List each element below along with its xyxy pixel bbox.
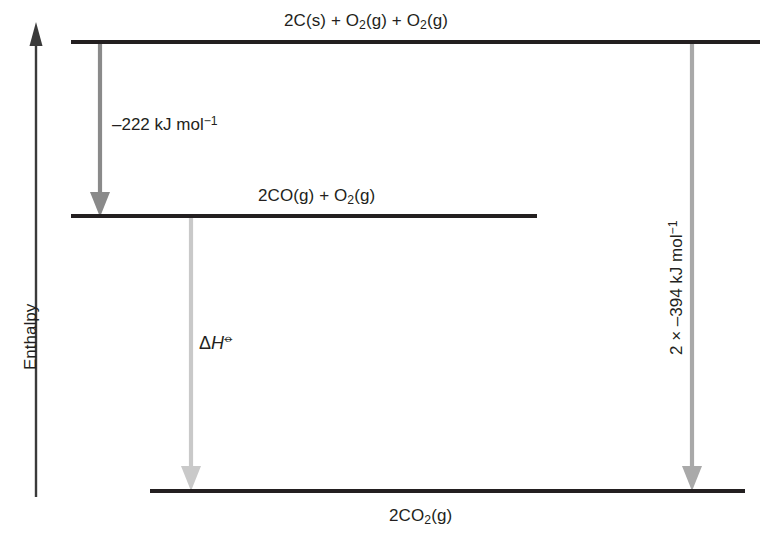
enthalpy-axis xyxy=(30,22,43,497)
arrow-left-value: –222 kJ mol xyxy=(112,115,204,134)
species-bottom-sub: 2 xyxy=(424,513,431,527)
arrow-label-right: 2 × –394 kJ mol−1 xyxy=(668,221,685,355)
enthalpy-level-diagram: Enthalpy 2C(s) + O2(g) + O2(g) 2CO(g) + … xyxy=(0,0,763,544)
arrow-right-exponent: −1 xyxy=(666,221,680,235)
level-line-top xyxy=(71,40,760,44)
arrow-enthalpy-change-2 xyxy=(181,218,201,491)
species-middle-prefix: 2CO(g) + O xyxy=(258,186,347,205)
plimsoll-symbol: ⦵ xyxy=(224,331,234,345)
species-top-suffix: (g) xyxy=(427,11,448,30)
arrow-enthalpy-change-1 xyxy=(90,42,110,217)
diagram-canvas xyxy=(0,0,763,544)
species-middle-suffix: (g) xyxy=(354,186,375,205)
arrow-label-left: –222 kJ mol−1 xyxy=(112,116,218,133)
species-label-top: 2C(s) + O2(g) + O2(g) xyxy=(284,12,448,29)
arrow-label-delta-h: ΔH⦵ xyxy=(199,332,234,352)
axis-title-enthalpy: Enthalpy xyxy=(22,304,39,370)
species-label-middle: 2CO(g) + O2(g) xyxy=(258,187,375,204)
delta-symbol: Δ xyxy=(199,333,211,353)
arrow-right-value: 2 × –394 kJ mol xyxy=(667,235,686,356)
species-top-mid: (g) + O xyxy=(366,11,420,30)
species-label-bottom: 2CO2(g) xyxy=(389,507,452,524)
level-line-bottom xyxy=(150,489,745,493)
species-middle-sub: 2 xyxy=(347,193,354,207)
species-bottom-suffix: (g) xyxy=(431,506,452,525)
enthalpy-symbol: H xyxy=(211,333,224,353)
species-top-prefix: 2C(s) + O xyxy=(284,11,359,30)
species-top-sub1: 2 xyxy=(359,18,366,32)
arrow-left-exponent: −1 xyxy=(204,114,218,128)
species-top-sub2: 2 xyxy=(420,18,427,32)
level-line-middle xyxy=(71,214,537,218)
species-bottom-prefix: 2CO xyxy=(389,506,424,525)
